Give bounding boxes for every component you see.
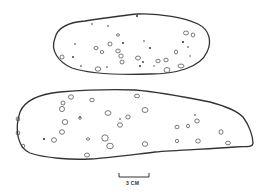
scale-bar-label: 3 CM bbox=[126, 180, 139, 186]
upper-stone-outline bbox=[54, 14, 210, 74]
lower-stone-outline bbox=[16, 90, 253, 160]
figure-canvas bbox=[0, 0, 269, 194]
scale-bar bbox=[119, 173, 149, 177]
